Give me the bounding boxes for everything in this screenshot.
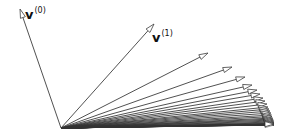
vector-arrow <box>20 9 61 128</box>
label-v1: v(1) <box>152 29 173 45</box>
label-v0-symbol: v <box>25 7 33 22</box>
label-v0-superscript: (0) <box>34 6 45 15</box>
label-v1-symbol: v <box>152 30 160 45</box>
vector-convergence-diagram: v(0) v(1) <box>0 0 288 134</box>
label-v0: v(0) <box>25 6 46 22</box>
label-v1-superscript: (1) <box>161 29 172 38</box>
